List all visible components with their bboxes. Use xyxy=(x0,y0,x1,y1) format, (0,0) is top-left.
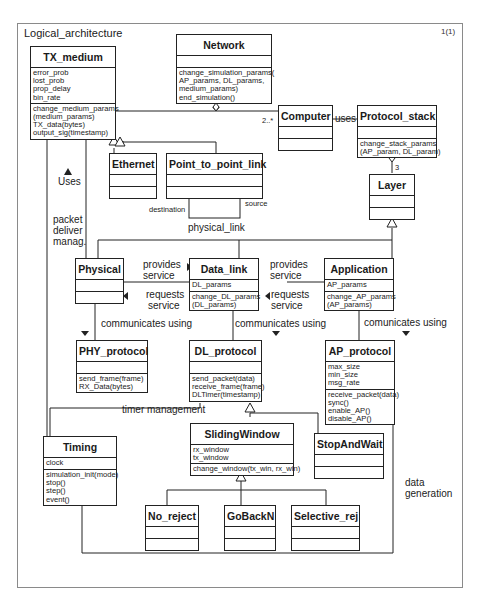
class-phy-protocol[interactable]: PHY_protocol send_frame(frame) RX_Data(b… xyxy=(76,340,148,393)
class-attributes xyxy=(167,175,262,187)
class-go-back-n[interactable]: GoBackN xyxy=(224,505,276,551)
class-operations xyxy=(370,208,414,219)
class-name: PHY_protocol xyxy=(77,341,147,362)
class-name: Protocol_stack xyxy=(358,106,436,127)
class-ethernet[interactable]: Ethernet xyxy=(109,153,157,199)
label-line: service xyxy=(270,270,308,281)
class-operations: change_simulation_params( AP_params, DL_… xyxy=(177,68,271,103)
class-name: Selective_rej xyxy=(292,506,359,527)
class-operations xyxy=(146,539,198,550)
label-packet-deliver: packet deliver manag. xyxy=(53,214,86,247)
label-uses-tx: Uses xyxy=(58,176,81,187)
class-attributes xyxy=(76,280,123,292)
class-application[interactable]: Application AP_params change_AP_params (… xyxy=(324,258,394,311)
label-line: generation xyxy=(405,488,452,499)
class-name: Application xyxy=(325,259,393,280)
operation: change_window(tx_win, rx_win) xyxy=(193,465,291,473)
class-name: DL_protocol xyxy=(190,341,261,362)
class-attributes xyxy=(77,362,147,374)
class-operations: change_AP_params (AP_params) xyxy=(325,292,393,310)
label-line: data xyxy=(405,477,452,488)
class-attributes: error_prob lost_prob prop_delay bin_rate xyxy=(31,68,115,104)
label-requests-service-2: requests service xyxy=(271,289,309,311)
class-attributes: DL_params xyxy=(190,280,258,292)
class-selective-rej[interactable]: Selective_rej xyxy=(291,505,360,551)
label-line: requests xyxy=(271,289,309,300)
label-communicates-using-1: communicates using xyxy=(101,318,192,329)
class-name: StopAndWait xyxy=(315,434,383,455)
class-name: Computer xyxy=(279,106,332,127)
class-name: Physical xyxy=(76,259,123,280)
class-tx-medium[interactable]: TX_medium error_prob lost_prob prop_dela… xyxy=(30,46,116,140)
class-attributes xyxy=(315,455,383,467)
operation: event() xyxy=(46,496,114,504)
attribute: msg_rate xyxy=(328,379,392,387)
class-attributes xyxy=(146,527,198,539)
label-line: packet xyxy=(53,214,86,225)
class-attributes: max_size min_size msg_rate xyxy=(326,362,394,390)
class-attributes xyxy=(110,175,156,187)
class-attributes xyxy=(190,362,261,374)
class-name: TX_medium xyxy=(31,47,115,68)
label-line: service xyxy=(143,270,181,281)
label-line: requests xyxy=(146,289,184,300)
class-protocol-stack[interactable]: Protocol_stack change_stack_params (AP_p… xyxy=(357,105,437,158)
class-operations xyxy=(279,139,332,150)
operation: (DL_params) xyxy=(192,301,256,309)
class-stop-and-wait[interactable]: StopAndWait xyxy=(314,433,384,479)
label-requests-service-1: requests service xyxy=(146,289,184,311)
operation: end_simulation() xyxy=(179,94,269,102)
class-operations: change_stack_params (AP_param, DL_param) xyxy=(358,139,436,157)
class-name: Network xyxy=(177,35,271,56)
class-name: Ethernet xyxy=(110,154,156,175)
class-attributes: clock xyxy=(44,458,116,470)
class-dl-protocol[interactable]: DL_protocol send_packet(data) receive_fr… xyxy=(189,340,262,402)
class-attributes xyxy=(358,127,436,139)
class-no-reject[interactable]: No_reject xyxy=(145,505,199,551)
class-name: No_reject xyxy=(146,506,198,527)
label-line: service xyxy=(146,300,184,311)
attribute: AP_params xyxy=(327,281,391,289)
class-network[interactable]: Network change_simulation_params( AP_par… xyxy=(176,34,272,104)
class-attributes xyxy=(225,527,275,539)
class-data-link[interactable]: Data_link DL_params change_DL_params (DL… xyxy=(189,258,259,311)
label-timer-management: timer management xyxy=(122,404,205,415)
class-layer[interactable]: Layer xyxy=(369,174,415,220)
class-operations: send_packet(data) receive_frame(frame) D… xyxy=(190,374,261,401)
class-sliding-window[interactable]: SlidingWindow rx_window tx_window change… xyxy=(190,423,294,476)
class-name: GoBackN xyxy=(225,506,275,527)
class-operations: send_frame(frame) RX_Data(bytes) xyxy=(77,374,147,392)
label-data-generation: data generation xyxy=(405,477,452,499)
class-timing[interactable]: Timing clock simulation_init(mode) stop(… xyxy=(43,436,117,506)
attribute: tx_window xyxy=(193,454,291,462)
label-source: source xyxy=(245,198,268,209)
attribute: bin_rate xyxy=(33,94,113,102)
class-attributes: rx_window tx_window xyxy=(191,445,293,464)
class-name: Point_to_point_link xyxy=(167,154,262,175)
class-physical[interactable]: Physical xyxy=(75,258,124,304)
class-computer[interactable]: Computer xyxy=(278,105,333,151)
class-ap-protocol[interactable]: AP_protocol max_size min_size msg_rate r… xyxy=(325,340,395,425)
label-provides-service-2: provides service xyxy=(270,259,308,281)
class-operations xyxy=(167,187,262,198)
class-operations xyxy=(315,467,383,478)
label-line: provides xyxy=(270,259,308,270)
label-provides-service-1: provides service xyxy=(143,259,181,281)
page-number: 1(1) xyxy=(441,27,455,36)
class-operations: change_DL_params (DL_params) xyxy=(190,292,258,310)
label-line: provides xyxy=(143,259,181,270)
label-line: deliver xyxy=(53,225,86,236)
label-destination: destination xyxy=(149,204,185,215)
class-operations xyxy=(292,539,359,550)
operation: (AP_params) xyxy=(327,301,391,309)
label-communicates-using-2: communicates using xyxy=(235,318,326,329)
class-operations xyxy=(225,539,275,550)
attribute: DL_params xyxy=(192,281,256,289)
label-multiplicity-layer: 3 xyxy=(395,162,399,173)
label-multiplicity-computer: 2..* xyxy=(262,115,273,126)
class-point-to-point-link[interactable]: Point_to_point_link xyxy=(166,153,263,199)
operation: DLTimer(timestamp) xyxy=(192,391,259,399)
label-communicates-using-3: comunicates using xyxy=(364,317,447,328)
operation: RX_Data(bytes) xyxy=(79,383,145,391)
class-name: Timing xyxy=(44,437,116,458)
